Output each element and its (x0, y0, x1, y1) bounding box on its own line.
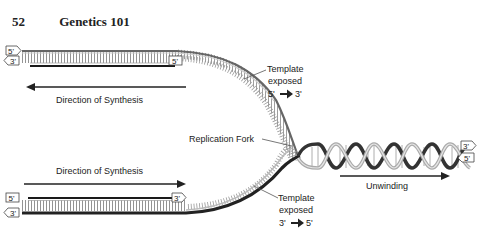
tag-helix-lower-right: 5' (464, 154, 470, 163)
tag-top-upper-left: 5' (8, 47, 14, 56)
label-template-bottom-line2: exposed (279, 205, 313, 215)
arrow-right-icon (291, 219, 304, 228)
label-direction-top: Direction of Synthesis (56, 95, 144, 105)
tag-bottom-lower-left: 3' (10, 209, 16, 218)
replication-fork-diagram: 5' 3' 5' 5' 3' 3' 3' 5' Direction of Syn… (0, 0, 488, 239)
label-template-bottom-from: 3' (279, 218, 286, 228)
direction-arrow-top (26, 83, 186, 91)
label-template-top-line1: Template (267, 64, 304, 74)
top-arm (22, 51, 298, 160)
double-helix (298, 144, 470, 168)
label-template-bottom-to: 5' (306, 218, 313, 228)
tag-helix-upper-right: 3' (463, 142, 469, 151)
label-replication-fork: Replication Fork (189, 134, 255, 144)
unwinding-arrow (340, 172, 450, 180)
label-template-top-to: 3' (295, 89, 302, 99)
top-base-pairs (22, 52, 177, 63)
direction-arrow-bottom (24, 180, 186, 188)
tag-top-lower-right: 5' (172, 57, 178, 66)
bottom-base-pairs (22, 200, 187, 211)
label-template-bottom-line1: Template (278, 193, 315, 203)
bottom-arm (22, 148, 300, 213)
tag-bottom-upper-right: 3' (174, 194, 180, 203)
tag-bottom-upper-left: 5' (9, 194, 15, 203)
label-direction-bottom: Direction of Synthesis (56, 166, 144, 176)
label-template-top-from: 5' (268, 89, 275, 99)
tag-top-lower-left: 3' (10, 57, 16, 66)
label-unwinding: Unwinding (366, 181, 408, 191)
label-template-top-line2: exposed (268, 76, 302, 86)
arrow-right-icon (280, 90, 293, 99)
